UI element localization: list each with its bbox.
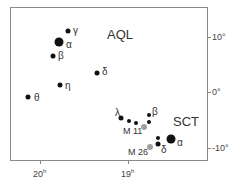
x-tick-value: 20 <box>33 169 43 179</box>
x-tick-mark <box>40 161 41 164</box>
star-dot-eta-aql <box>58 83 63 88</box>
star-label-delta-aql: δ <box>102 67 108 77</box>
star-dot-alpha-aql <box>55 38 64 47</box>
x-tick-label: 19h <box>121 167 134 179</box>
star-label-eta-aql: η <box>65 81 71 91</box>
y-tick-label: 0° <box>212 88 221 97</box>
star-label-m11: M 11 <box>123 127 142 136</box>
star-label-delta-sct: δ <box>161 145 167 155</box>
constellation-label-aql: AQL <box>107 28 133 41</box>
y-tick-mark <box>208 92 211 93</box>
star-label-lambda-aql: λ <box>115 108 120 118</box>
star-dot-star-c <box>147 120 151 124</box>
y-tick-label: -10° <box>212 144 229 153</box>
star-dot-delta-sct <box>156 142 161 147</box>
x-tick-value: 19 <box>121 169 131 179</box>
x-tick-unit: h <box>43 168 46 174</box>
star-label-gamma-aql: γ <box>73 26 78 36</box>
star-label-theta-aql: θ <box>34 93 40 103</box>
star-dot-delta-aql <box>95 71 100 76</box>
star-label-beta-aql: β <box>58 51 64 61</box>
constellation-label-sct: SCT <box>173 115 199 128</box>
star-dot-star-b <box>134 121 138 125</box>
x-tick-mark <box>128 161 129 164</box>
x-tick-unit: h <box>131 168 134 174</box>
star-dot-star-a <box>127 119 131 123</box>
star-dot-star-d <box>156 136 160 140</box>
star-label-m26: M 26 <box>128 148 148 157</box>
y-tick-mark <box>208 148 211 149</box>
y-tick-label: 10° <box>212 33 226 42</box>
star-label-alpha-aql: α <box>66 40 72 50</box>
star-dot-beta-sct <box>147 113 151 117</box>
star-dot-gamma-aql <box>66 29 71 34</box>
x-tick-label: 20h <box>33 167 46 179</box>
star-dot-theta-aql <box>26 95 31 100</box>
star-dot-beta-aql <box>51 54 56 59</box>
y-tick-mark <box>208 37 211 38</box>
star-label-alpha-sct: α <box>177 138 183 148</box>
star-dot-alpha-sct <box>167 135 176 144</box>
star-label-beta-sct: β <box>152 107 158 117</box>
